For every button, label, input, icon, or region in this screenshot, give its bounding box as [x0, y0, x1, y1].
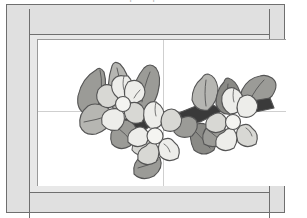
screenshot-stage: clip art preview — [0, 0, 307, 218]
flower-center-right — [226, 115, 241, 130]
petal-right-ne — [237, 95, 258, 117]
petal-left-sw — [102, 109, 125, 131]
caption-text: clip art preview — [120, 0, 187, 3]
petal-right-se — [236, 124, 257, 146]
flower-center-left — [116, 97, 131, 112]
artwork-canvas — [37, 39, 286, 186]
petal-center-ne — [161, 109, 182, 131]
flower-center-center — [147, 128, 163, 144]
picture-frame — [6, 4, 285, 213]
dogwood-branch-illustration — [38, 40, 286, 186]
artwork-canvas-inner — [38, 40, 286, 186]
frame-rail-bottom — [29, 192, 270, 193]
